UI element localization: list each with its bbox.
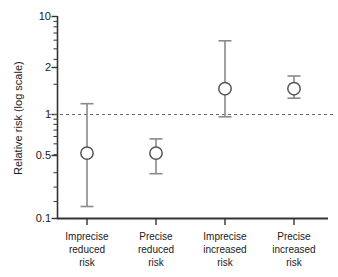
category-label-line: risk [148, 257, 165, 268]
y-tick-label-10: 10 [39, 10, 51, 22]
relative-risk-plot: Relative risk (log scale) 10 2 1 0.5 0.1 [0, 0, 338, 277]
category-label-line: Precise [139, 231, 173, 242]
y-axis-title: Relative risk (log scale) [12, 61, 24, 175]
category-label-line: reduced [138, 244, 174, 255]
marker-open-circle [150, 147, 162, 159]
category-label-imprecise-reduced-risk: Imprecise reduced risk [65, 231, 109, 268]
y-tick-label-2: 2 [45, 61, 51, 73]
category-label-line: Imprecise [203, 231, 247, 242]
data-point-imprecise-increased-risk[interactable] [219, 41, 232, 117]
category-label-line: risk [286, 257, 303, 268]
y-major-ticks [52, 17, 58, 219]
data-point-precise-reduced-risk[interactable] [150, 139, 163, 174]
category-label-imprecise-increased-risk: Imprecise increased risk [203, 231, 247, 268]
category-label-line: reduced [69, 244, 105, 255]
x-axis-ticks [87, 219, 294, 226]
data-point-precise-increased-risk[interactable] [288, 76, 301, 98]
y-tick-label-0-1: 0.1 [36, 212, 51, 224]
data-point-imprecise-reduced-risk[interactable] [81, 104, 94, 207]
chart-figure: Relative risk (log scale) 10 2 1 0.5 0.1 [0, 0, 338, 277]
category-label-line: increased [272, 244, 315, 255]
category-label-precise-reduced-risk: Precise reduced risk [138, 231, 174, 268]
y-tick-label-0-5: 0.5 [36, 149, 51, 161]
category-label-line: Precise [277, 231, 311, 242]
category-label-precise-increased-risk: Precise increased risk [272, 231, 315, 268]
category-label-line: increased [203, 244, 246, 255]
marker-open-circle [81, 147, 93, 159]
marker-open-circle [288, 83, 300, 95]
category-label-line: risk [217, 257, 234, 268]
category-label-line: Imprecise [65, 231, 109, 242]
category-label-line: risk [79, 257, 96, 268]
marker-open-circle [219, 83, 231, 95]
